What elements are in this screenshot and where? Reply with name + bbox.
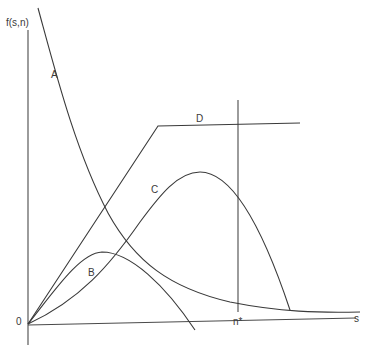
curve-a bbox=[38, 8, 360, 312]
curve-c bbox=[28, 172, 290, 324]
curve-b-label: B bbox=[88, 267, 95, 278]
curve-d bbox=[28, 123, 300, 324]
origin-label: 0 bbox=[16, 316, 22, 327]
x-axis-label: s bbox=[354, 313, 359, 324]
x-axis bbox=[28, 318, 356, 325]
curve-d-label: D bbox=[196, 113, 203, 124]
curve-b bbox=[28, 252, 195, 330]
curve-c-label: C bbox=[151, 184, 158, 195]
y-axis-label: f(s,n) bbox=[6, 17, 29, 28]
curve-a-label: A bbox=[51, 69, 58, 80]
diagram-canvas: f(s,n) s 0 n* A B C D bbox=[0, 0, 376, 359]
n-star-label: n* bbox=[233, 316, 243, 327]
